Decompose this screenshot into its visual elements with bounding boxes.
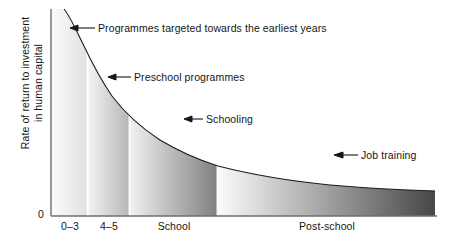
arrowhead-preschool xyxy=(108,74,116,80)
y-axis-title-line1: Rate of return to investment xyxy=(19,0,32,167)
x-axis-label-0-3: 0–3 xyxy=(52,220,88,232)
y-axis-tick-zero: 0 xyxy=(38,208,44,220)
x-axis-label-school: School xyxy=(131,220,217,232)
band-school xyxy=(130,0,218,248)
x-axis-label-post-school: Post-school xyxy=(219,220,435,232)
y-axis-title: Rate of return to investment in human ca… xyxy=(19,0,45,167)
heckman-curve-chart: Rate of return to investment in human ca… xyxy=(0,0,455,248)
band-4-5 xyxy=(88,0,130,248)
annotation-job-training: Job training xyxy=(361,149,416,161)
band-0-3 xyxy=(51,0,88,248)
annotation-preschool: Preschool programmes xyxy=(134,71,245,83)
annotation-earliest-years: Programmes targeted towards the earliest… xyxy=(98,22,327,34)
x-axis-label-4-5: 4–5 xyxy=(89,220,129,232)
y-axis-title-line2: in human capital xyxy=(32,0,45,167)
arrowhead-job-training xyxy=(334,152,343,158)
annotation-schooling: Schooling xyxy=(206,113,253,125)
arrowhead-schooling xyxy=(184,116,192,122)
